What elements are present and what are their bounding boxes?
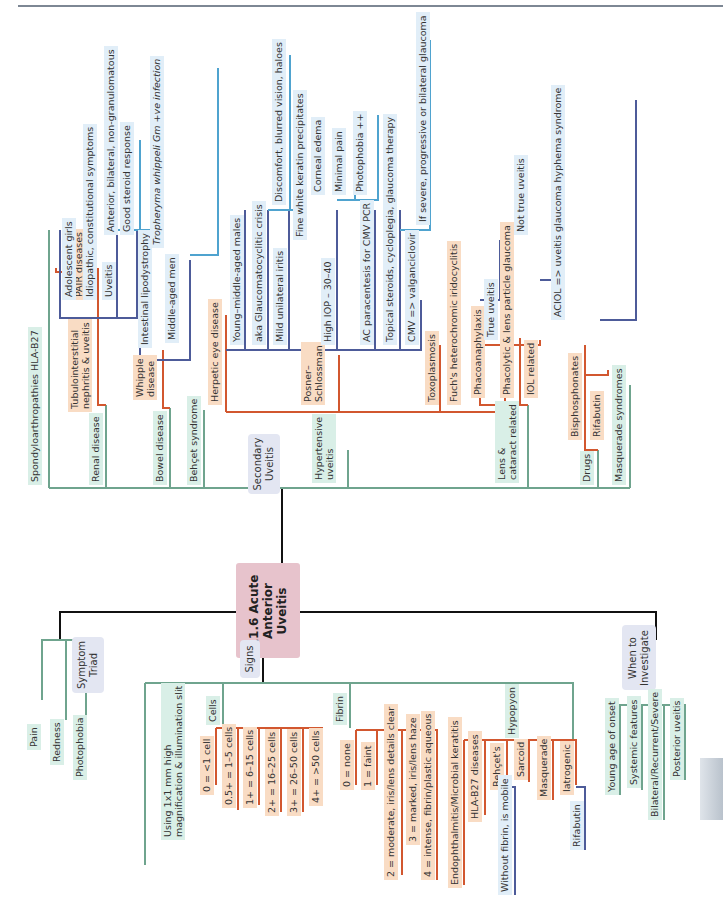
node-middle-aged-men: Middle-aged men xyxy=(165,254,179,343)
symptom-redness: Redness xyxy=(50,719,64,765)
node-fuchs: Fuch's heterochromic iridocyclitis xyxy=(447,241,461,405)
node-not-true-uveitis: Not true uveitis xyxy=(514,155,528,235)
branch-signs: Signs xyxy=(240,640,260,678)
fibrin-grade-2: 2 = moderate, iris/lens details clear xyxy=(384,704,398,880)
branch-symptom-triad: Symptom Triad xyxy=(72,637,104,693)
node-uveitis: Uveitis xyxy=(102,262,116,300)
branch-secondary-uveitis: Secondary Uveitis xyxy=(248,434,280,494)
hypopyon-iatrogenic: Iatrogenic xyxy=(560,741,574,795)
cell-grade-2: 2+ = 16–25 cells xyxy=(265,729,279,816)
node-high-iop: High IOP – 30–40 xyxy=(321,258,335,345)
node-spondyloarthropathies: Spondyloarthropathies HLA-B27 xyxy=(28,327,42,485)
hypopyon-rifabutin: Rifabutin xyxy=(570,801,584,850)
node-hypertensive-uveitis: Hypertensive uveitis xyxy=(312,414,336,483)
node-ac-paracentesis: AC paracentesis for CMV PCR xyxy=(360,200,374,345)
node-iol-related: IOL related xyxy=(524,340,538,398)
node-adolescent-girls: Adolescent girls xyxy=(62,218,76,300)
node-mild-iritis: Mild unilateral iritis xyxy=(273,248,287,345)
central-title: 11.6 Acute Anterior Uveitis xyxy=(247,574,289,647)
hypopyon-sarcoid: Sarcoid xyxy=(514,739,528,780)
investigate-systemic: Systemic features xyxy=(627,696,641,788)
node-behcet-syndrome: Behçet syndrome xyxy=(187,396,201,485)
hypopyon-hla-b27: HLA-B27 diseases xyxy=(468,731,482,822)
node-tinu: Tubulointerstitial nephritis & uveitis xyxy=(68,319,92,412)
fibrin-grade-3: 3 = marked, iris/lens haze xyxy=(406,714,420,845)
symptom-photophobia: Photophobia xyxy=(73,715,87,780)
fibrin-grade-4: 4 = intense, fibrin/plastic aqueous xyxy=(421,711,435,880)
node-posner-schlossman: Posner– Schlossman xyxy=(301,342,325,405)
node-masquerade-syndromes: Masquerade syndromes xyxy=(612,365,626,485)
hypopyon-endophthalmitis: Endophthalmitis/Microbial keratitis xyxy=(448,717,462,888)
page-side-tab xyxy=(700,758,723,820)
node-phacoanaphylaxis: Phacoanaphylaxis xyxy=(471,306,485,398)
node-severe-glaucoma: If severe, progressive or bilateral glau… xyxy=(416,12,430,225)
investigate-bilateral: Bilateral/Recurrent/Severe xyxy=(648,689,662,820)
node-herpetic-eye-disease: Herpetic eye disease xyxy=(208,299,222,405)
node-whipple-disease: Whipple disease xyxy=(133,355,157,400)
node-lens-cataract: Lens & cataract related xyxy=(495,401,519,483)
node-phacolytic: Phacolytic & lens particle glaucoma xyxy=(500,222,514,398)
investigate-posterior: Posterior uveitis xyxy=(670,698,684,780)
node-true-uveitis: True uveitis xyxy=(484,279,498,340)
node-discomfort: Discomfort, blurred vision, haloes xyxy=(272,39,286,205)
cell-grade-05: 0.5+ = 1–5 cells xyxy=(222,724,236,808)
node-anterior-bilateral: Anterior, bilateral, non-granulomatous xyxy=(104,46,118,235)
node-minimal-pain: Minimal pain xyxy=(332,128,346,195)
cell-grade-4: 4+ = >50 cells xyxy=(309,728,323,806)
symptom-pain: Pain xyxy=(27,724,41,750)
signs-hypopyon: Hypopyon xyxy=(505,684,519,738)
node-photophobia-plus: Photophobia ++ xyxy=(353,111,367,195)
node-rifabutin-drug: Rifabutin xyxy=(590,391,604,440)
node-idiopathic: Idiopathic, constitutional symptoms xyxy=(83,124,97,300)
node-bowel-disease: Bowel disease xyxy=(153,411,167,485)
cell-grade-1: 1+ = 6–15 cells xyxy=(243,727,257,808)
investigate-young-age: Young age of onset xyxy=(605,698,619,795)
hypopyon-masquerade: Masquerade xyxy=(537,736,551,800)
node-corneal-edema: Corneal edema xyxy=(311,117,325,195)
node-aciol: ACIOL => uveitis glaucoma hyphema syndro… xyxy=(551,85,565,320)
signs-cells: Cells xyxy=(206,696,220,725)
signs-using-slit: Using 1x1 mm high magnification & illumi… xyxy=(161,683,185,840)
node-young-males: Young–middle-aged males xyxy=(230,215,244,345)
node-keratin-precipitates: Fine white keratin precipitates xyxy=(293,90,307,240)
branch-when-to-investigate: When to Investigate xyxy=(622,625,656,690)
signs-fibrin: Fibrin xyxy=(333,693,347,725)
node-bisphosphonates: Bisphosphonates xyxy=(568,353,582,440)
node-steroid-response: Good steroid response xyxy=(120,122,134,235)
fibrin-grade-1: 1 = faint xyxy=(361,742,375,790)
cell-grade-0: 0 = <1 cell xyxy=(200,736,214,795)
node-tropheryma: Tropheryma whippeli Gm +ve infection xyxy=(150,56,164,248)
cell-grade-3: 3+ = 26–50 cells xyxy=(287,729,301,816)
node-cmv-valganciclovir: CMV => valganciclovir xyxy=(405,230,419,345)
node-drugs: Drugs xyxy=(580,451,594,485)
node-toxoplasmosis: Toxoplasmosis xyxy=(425,331,439,405)
fibrin-grade-0: 0 = none xyxy=(340,740,354,790)
node-glaucomatocyclitic: aka Glaucomatocyclitic crisis xyxy=(252,201,266,345)
node-topical-steroids: Topical steroids, cycloplegia, glaucoma … xyxy=(383,114,397,345)
hypopyon-mobile: Without fibrin, is mobile xyxy=(498,775,512,895)
node-renal-disease: Renal disease xyxy=(89,413,103,485)
